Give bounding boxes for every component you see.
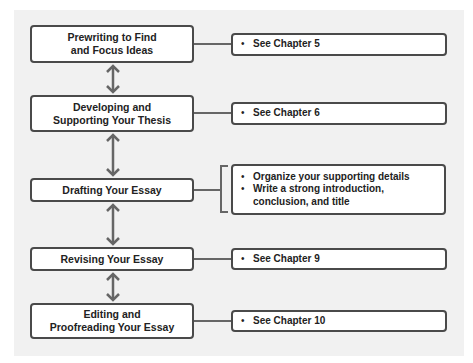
connector-line — [194, 189, 222, 191]
step-label: Developing and — [53, 101, 171, 114]
connector-line — [194, 112, 232, 114]
double-arrow-icon — [105, 203, 121, 246]
step-label: Proofreading Your Essay — [50, 321, 174, 334]
step-prewriting: Prewriting to Findand Focus Ideas — [30, 25, 194, 63]
step-label: Prewriting to Find — [67, 31, 156, 44]
detail-item: Organize your supporting details — [241, 171, 436, 184]
step-developing: Developing andSupporting Your Thesis — [30, 95, 194, 132]
step-drafting: Drafting Your Essay — [30, 178, 194, 202]
detail-item: See Chapter 9 — [241, 253, 437, 266]
detail-item: Write a strong introduction, conclusion,… — [241, 183, 436, 208]
connector-line — [194, 320, 232, 322]
step-revising: Revising Your Essay — [30, 247, 194, 271]
detail-item: See Chapter 5 — [241, 38, 437, 51]
step-editing: Editing andProofreading Your Essay — [30, 303, 194, 339]
double-arrow-icon — [105, 133, 121, 177]
detail-box-prewriting: See Chapter 5 — [231, 33, 447, 56]
step-label: and Focus Ideas — [67, 44, 156, 57]
detail-box-developing: See Chapter 6 — [231, 102, 447, 125]
double-arrow-icon — [105, 272, 121, 302]
detail-box-editing: See Chapter 10 — [231, 310, 447, 332]
step-label: Revising Your Essay — [61, 253, 164, 266]
detail-item: See Chapter 6 — [241, 107, 437, 120]
detail-item: See Chapter 10 — [241, 315, 437, 328]
step-label: Supporting Your Thesis — [53, 114, 171, 127]
connector-line — [194, 258, 232, 260]
step-label: Editing and — [50, 308, 174, 321]
double-arrow-icon — [105, 64, 121, 94]
detail-box-drafting: Organize your supporting details Write a… — [231, 164, 446, 215]
detail-box-revising: See Chapter 9 — [231, 248, 447, 270]
connector-line — [194, 43, 232, 45]
step-label: Drafting Your Essay — [62, 184, 161, 197]
bracket — [220, 165, 228, 213]
